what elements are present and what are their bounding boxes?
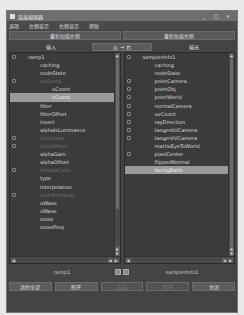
reload-left-button[interactable]: 重新加载左侧 bbox=[9, 31, 121, 40]
left-node-name: ramp1 bbox=[9, 269, 115, 275]
lock-left-toggle[interactable] bbox=[115, 269, 121, 275]
menu-options[interactable]: 选项 bbox=[9, 22, 19, 29]
close-button[interactable]: × bbox=[222, 13, 234, 19]
maximize-button[interactable]: □ bbox=[210, 13, 222, 19]
attribute-label: matrixEyeToWorld bbox=[155, 142, 200, 150]
attribute-row[interactable]: nodeState bbox=[125, 69, 229, 77]
attribute-row[interactable]: defaultColor bbox=[10, 166, 114, 174]
menu-right-display[interactable]: 右侧显示 bbox=[59, 22, 79, 29]
attribute-row[interactable]: filterOffset bbox=[10, 110, 114, 118]
reload-right-button[interactable]: 重新加载右侧 bbox=[123, 31, 235, 40]
expand-icon[interactable] bbox=[127, 112, 131, 116]
scroll-thumb[interactable] bbox=[116, 59, 119, 209]
attribute-row[interactable]: ramp1 bbox=[10, 53, 114, 61]
expand-icon[interactable] bbox=[127, 55, 131, 59]
scroll-left-arrow-icon[interactable]: ◀ bbox=[222, 258, 227, 263]
expand-icon[interactable] bbox=[127, 104, 131, 108]
expand-icon[interactable] bbox=[127, 79, 131, 83]
expand-icon[interactable] bbox=[127, 136, 131, 140]
attribute-row[interactable]: facingRatio bbox=[125, 166, 229, 174]
attribute-row[interactable]: tangentVCamera bbox=[125, 134, 229, 142]
scroll-thumb[interactable] bbox=[230, 59, 233, 249]
disconnect-button[interactable]: 断开 bbox=[146, 282, 189, 291]
attribute-row[interactable]: noise bbox=[10, 215, 114, 223]
attribute-row[interactable]: pointWorld bbox=[125, 93, 229, 101]
swap-direction-button[interactable]: 从 → 右 bbox=[92, 43, 152, 51]
attribute-row[interactable]: nodeState bbox=[10, 69, 114, 77]
scroll-left-arrow-icon[interactable]: ◀ bbox=[126, 258, 131, 263]
connect-button[interactable]: 连接 bbox=[101, 282, 144, 291]
expand-icon[interactable] bbox=[12, 79, 16, 83]
attribute-row[interactable]: invert bbox=[10, 118, 114, 126]
direction-bar: 输入 从 → 右 输出 bbox=[7, 41, 237, 52]
attribute-label: tangentUCamera bbox=[155, 126, 198, 134]
attribute-row[interactable]: colorOffset bbox=[10, 142, 114, 150]
attribute-row[interactable]: flippedNormal bbox=[125, 158, 229, 166]
attribute-row[interactable]: samplerInfo1 bbox=[125, 53, 229, 61]
left-vertical-scrollbar[interactable]: ▲ ▲ ▼ bbox=[114, 53, 120, 256]
scroll-left-arrow-icon[interactable]: ◀ bbox=[108, 258, 113, 263]
scroll-up-arrow-icon[interactable]: ▲ bbox=[229, 53, 234, 58]
left-horizontal-scrollbar[interactable]: ◀ ◀ ▶ bbox=[10, 256, 120, 263]
attribute-row[interactable]: pointCamera bbox=[125, 77, 229, 85]
app-icon bbox=[10, 14, 15, 19]
attribute-row[interactable]: vCoord bbox=[10, 93, 114, 101]
title-bar[interactable]: 连接编辑器 _ □ × bbox=[7, 11, 237, 21]
attribute-row[interactable]: caching bbox=[10, 61, 114, 69]
attribute-row[interactable]: pointObj bbox=[125, 85, 229, 93]
attribute-row[interactable]: rayDirection bbox=[125, 118, 229, 126]
expand-icon[interactable] bbox=[127, 152, 131, 156]
expand-icon[interactable] bbox=[12, 144, 16, 148]
attribute-label: nodeState bbox=[40, 69, 66, 77]
attribute-row[interactable]: normalCamera bbox=[125, 102, 229, 110]
attribute-row[interactable]: caching bbox=[125, 61, 229, 69]
clear-all-button[interactable]: 清除全部 bbox=[9, 282, 52, 291]
menu-help[interactable]: 帮助 bbox=[89, 22, 99, 29]
attribute-row[interactable]: type bbox=[10, 174, 114, 182]
expand-icon[interactable] bbox=[127, 120, 131, 124]
attribute-row[interactable]: uWave bbox=[10, 199, 114, 207]
expand-icon[interactable] bbox=[127, 95, 131, 99]
attribute-row[interactable]: vWave bbox=[10, 207, 114, 215]
attribute-row[interactable]: tangentUCamera bbox=[125, 126, 229, 134]
attribute-label: vCoord bbox=[52, 93, 70, 101]
menu-left-display[interactable]: 左侧显示 bbox=[29, 22, 49, 29]
break-button[interactable]: 断开 bbox=[55, 282, 98, 291]
attribute-row[interactable]: pixelCenter bbox=[125, 150, 229, 158]
expand-icon[interactable] bbox=[12, 168, 16, 172]
minimize-button[interactable]: _ bbox=[198, 13, 210, 19]
attribute-label: alphaGain bbox=[40, 150, 65, 158]
scroll-up-arrow-icon[interactable]: ▲ bbox=[115, 53, 120, 58]
output-label: 输出 bbox=[152, 43, 235, 50]
attribute-row[interactable]: uvCoord bbox=[125, 110, 229, 118]
attribute-row[interactable]: alphaOffset bbox=[10, 158, 114, 166]
scroll-left-arrow-icon[interactable]: ◀ bbox=[11, 258, 16, 263]
right-attribute-list[interactable]: samplerInfo1cachingnodeStatepointCamerap… bbox=[125, 53, 229, 256]
left-attribute-list[interactable]: ramp1cachingnodeStateuvCoorduCoordvCoord… bbox=[10, 53, 114, 256]
attribute-row[interactable]: uCoord bbox=[10, 85, 114, 93]
attribute-row[interactable]: matrixEyeToWorld bbox=[125, 142, 229, 150]
attribute-row[interactable]: alphaIsLuminance bbox=[10, 126, 114, 134]
connection-editor-window: 连接编辑器 _ □ × 选项 左侧显示 右侧显示 帮助 重新加载左侧 重新加载右… bbox=[6, 10, 238, 313]
attribute-label: pointCamera bbox=[155, 77, 187, 85]
attribute-row[interactable]: filter bbox=[10, 102, 114, 110]
attribute-row[interactable]: interpolation bbox=[10, 183, 114, 191]
expand-icon[interactable] bbox=[12, 193, 16, 197]
attribute-label: invert bbox=[40, 118, 55, 126]
node-names-bar: ramp1 samplerInfo1 bbox=[7, 264, 237, 280]
expand-icon[interactable] bbox=[127, 128, 131, 132]
right-horizontal-scrollbar[interactable]: ◀ ◀ ▶ bbox=[125, 256, 235, 263]
attribute-row[interactable]: uvCoord bbox=[10, 77, 114, 85]
attribute-row[interactable]: noiseFreq bbox=[10, 223, 114, 231]
expand-icon[interactable] bbox=[127, 87, 131, 91]
expand-icon[interactable] bbox=[12, 55, 16, 59]
attribute-row[interactable]: colorEntryList bbox=[10, 191, 114, 199]
scroll-right-arrow-icon[interactable]: ▶ bbox=[228, 258, 233, 263]
right-vertical-scrollbar[interactable]: ▲ ▲ ▼ bbox=[228, 53, 234, 256]
attribute-row[interactable]: colorGain bbox=[10, 134, 114, 142]
attribute-label: ramp1 bbox=[28, 53, 44, 61]
scroll-right-arrow-icon[interactable]: ▶ bbox=[114, 258, 119, 263]
close-dialog-button[interactable]: 关闭 bbox=[192, 282, 235, 291]
expand-icon[interactable] bbox=[12, 136, 16, 140]
attribute-row[interactable]: alphaGain bbox=[10, 150, 114, 158]
